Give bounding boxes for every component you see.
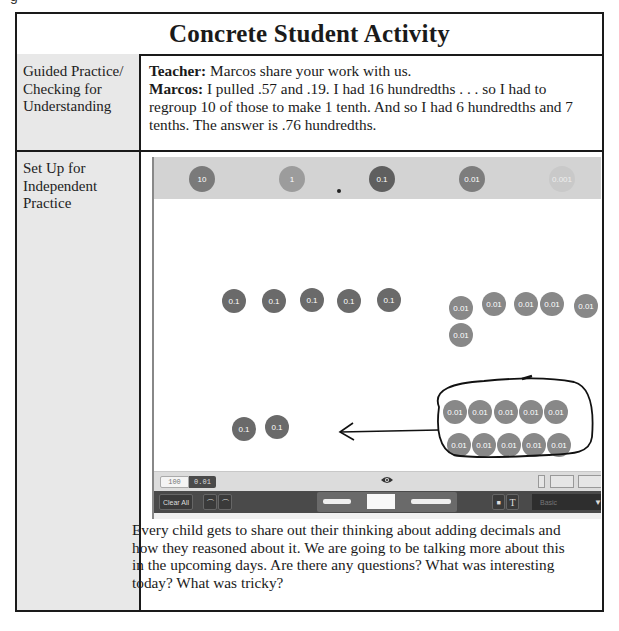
dropdown-value: Basic [540,499,557,506]
row-label-independent-practice: Set Up for Independent Practice [23,160,97,213]
mode-option-001[interactable]: 0.01 [189,476,216,488]
table-title: Concrete Student Activity [169,20,450,48]
circled-hundredth-disc[interactable]: 0.01 [522,433,546,457]
table-header: Concrete Student Activity [17,14,602,56]
eye-icon[interactable] [380,475,394,485]
circled-hundredth-disc[interactable]: 0.01 [468,400,492,424]
label-line: Independent [23,178,97,196]
clear-all-button[interactable]: Clear All [159,494,193,510]
circled-hundredth-disc[interactable]: 0.01 [494,400,518,424]
grid-ten-icon[interactable] [550,475,574,488]
label-line: Guided Practice/ [23,63,123,81]
hundredth-disc[interactable]: 0.01 [514,292,538,316]
mode-toggle[interactable]: 100 0.01 [160,476,216,488]
hundredth-disc[interactable]: 0.01 [449,323,473,347]
teacher-line: Teacher: Marcos share your work with us. [149,62,594,80]
redo-icon[interactable]: ⌒ [218,494,232,510]
row-divider [17,150,602,152]
undo-icon[interactable]: ⌒ [203,494,217,510]
speaker-teacher: Teacher: [149,62,206,79]
dialogue-text: Teacher: Marcos share your work with us.… [149,62,594,134]
circled-hundredth-disc[interactable]: 0.01 [519,400,543,424]
row-label-guided-practice: Guided Practice/ Checking for Understand… [23,63,123,116]
circled-hundredth-disc[interactable]: 0.01 [547,433,571,457]
arrow-shaft [340,430,439,432]
style-dropdown[interactable]: Basic ▼ [532,494,601,510]
grid-hundred-icon[interactable] [578,475,601,488]
screenshot-bottom-edge [154,513,601,519]
circled-hundredth-disc[interactable]: 0.01 [447,433,471,457]
circled-hundredth-disc[interactable]: 0.01 [443,400,467,424]
label-line: Practice [23,195,97,213]
label-column [17,54,141,610]
disc-thousandths[interactable]: 0.001 [549,166,575,192]
marcos-line: Marcos: I pulled .57 and .19. I had 16 h… [149,80,594,134]
figure-label-fragment: g [10,0,18,4]
disc-tens[interactable]: 10 [189,166,215,192]
regrouped-tenth-disc[interactable]: 0.1 [232,417,256,441]
eraser-tool[interactable] [367,494,395,509]
pen-tray [317,492,457,512]
tenth-disc[interactable]: 0.1 [300,288,324,312]
hundredth-disc[interactable]: 0.01 [449,296,473,320]
circled-hundredth-disc[interactable]: 0.01 [544,400,568,424]
text-tool-icon[interactable]: T [506,494,519,510]
hand-drawn-annotation [154,157,601,519]
app-toolbar: Clear All ⌒ ⌒ ■ T Basic ▼ [154,491,601,513]
chevron-down-icon: ▼ [594,498,601,507]
teacher-speech: Marcos share your work with us. [206,62,411,79]
hundredth-disc[interactable]: 0.01 [482,292,506,316]
marker-tool[interactable] [323,499,351,504]
pen-tool[interactable] [411,499,451,504]
tenth-disc[interactable]: 0.1 [377,288,401,312]
circled-hundredth-disc[interactable]: 0.01 [497,433,521,457]
app-status-bar: 100 0.01 [154,471,601,492]
mode-option-100[interactable]: 100 [160,476,189,488]
decimal-point [337,189,341,193]
place-value-bar: 10 1 0.1 0.01 0.001 [154,157,601,199]
arrow-head [340,423,354,440]
place-value-disc-app-screenshot: 10 1 0.1 0.01 0.001 0.1 0.1 0.1 0.1 0.1 … [152,157,601,519]
label-line: Understanding [23,98,123,116]
circled-hundredth-disc[interactable]: 0.01 [472,433,496,457]
shape-icon[interactable]: ■ [492,494,505,510]
hundredth-disc[interactable]: 0.01 [540,292,564,316]
disc-ones[interactable]: 1 [279,166,305,192]
tenth-disc[interactable]: 0.1 [262,289,286,313]
column-icon[interactable] [538,475,545,488]
tenth-disc[interactable]: 0.1 [337,289,361,313]
regrouped-tenth-disc[interactable]: 0.1 [265,415,289,439]
hundredth-disc[interactable]: 0.01 [574,294,598,318]
closing-text: Every child gets to share out their thin… [132,521,580,591]
disc-hundredths[interactable]: 0.01 [459,166,485,192]
disc-tenths[interactable]: 0.1 [369,166,395,192]
label-line: Set Up for [23,160,97,178]
label-line: Checking for [23,81,123,99]
speaker-marcos: Marcos: [149,80,203,97]
marcos-speech: I pulled .57 and .19. I had 16 hundredth… [149,80,573,133]
tenth-disc[interactable]: 0.1 [222,289,246,313]
